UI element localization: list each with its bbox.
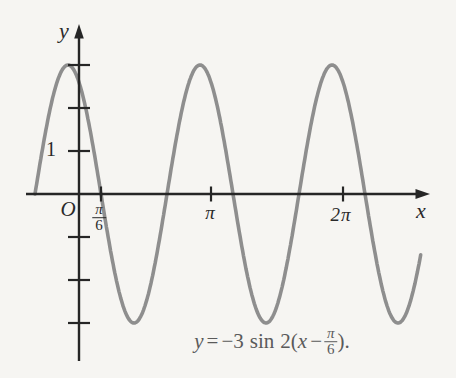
plot-svg bbox=[0, 0, 456, 378]
equation-caption: y = −3 sin 2( x − π 6 ). bbox=[194, 326, 349, 358]
equation-minus: − bbox=[310, 332, 322, 353]
origin-label: O bbox=[60, 199, 75, 220]
equation-coefficient: −3 bbox=[221, 332, 243, 353]
pi6-denominator: 6 bbox=[92, 218, 106, 234]
equation-y: y bbox=[194, 332, 203, 353]
equation-x: x bbox=[298, 332, 307, 353]
figure-canvas: y x O 1 π 6 π 2π y = −3 sin 2( x − π 6 )… bbox=[0, 0, 456, 378]
equation-frac-numerator: π bbox=[325, 326, 337, 341]
x-axis-label: x bbox=[416, 200, 426, 222]
equation-close: ). bbox=[337, 332, 349, 353]
x-tick-label-2pi: 2π bbox=[330, 205, 351, 224]
x-tick-label-pi-over-6: π 6 bbox=[92, 202, 106, 234]
equation-sin: sin bbox=[250, 332, 275, 353]
equation-two-open: 2( bbox=[280, 332, 298, 353]
equation-equals: = bbox=[207, 332, 219, 353]
axes bbox=[26, 24, 430, 361]
x-tick-label-pi: π bbox=[205, 203, 215, 222]
y-axis-label: y bbox=[59, 20, 69, 42]
y-axis-arrowhead bbox=[74, 24, 84, 39]
equation-fraction: π 6 bbox=[324, 326, 338, 358]
equation-frac-denominator: 6 bbox=[324, 342, 338, 358]
pi6-numerator: π bbox=[93, 202, 105, 217]
y-tick-label-1: 1 bbox=[46, 139, 56, 159]
